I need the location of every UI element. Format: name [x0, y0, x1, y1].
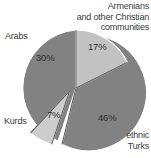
pie-value-armenians: 17% [88, 42, 106, 52]
pie-label-turks-line2: Turks [126, 141, 149, 152]
pie-label-turks: ethnic Turks [126, 130, 149, 151]
pie-label-armenians-line3: communities [77, 22, 149, 33]
pie-label-armenians-line1: Armenians [77, 1, 149, 12]
pie-label-arabs-line1: Arabs [5, 31, 28, 42]
pie-value-arabs: 30% [36, 53, 54, 63]
pie-value-turks: 46% [98, 113, 116, 123]
pie-label-arabs: Arabs [5, 31, 28, 42]
pie-label-turks-line1: ethnic [126, 130, 149, 141]
pie-label-armenians: Armenians and other Christian communitie… [77, 1, 149, 33]
pie-label-kurds-line1: Kurds [4, 116, 27, 127]
pie-chart-figure: Armenians and other Christian communitie… [0, 0, 151, 158]
pie-value-kurds: 7% [47, 110, 60, 120]
pie-label-armenians-line2: and other Christian [77, 12, 149, 23]
pie-label-kurds: Kurds [4, 116, 27, 127]
